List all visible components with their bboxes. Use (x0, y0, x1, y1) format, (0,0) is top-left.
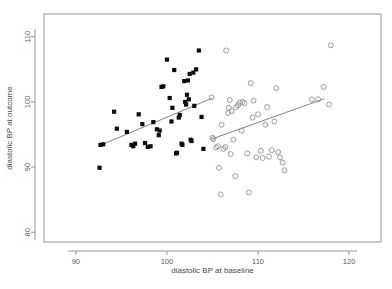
data-point-open-circle (328, 43, 333, 48)
data-point-filled-square (101, 142, 105, 146)
data-point-filled-square (168, 96, 172, 100)
data-point-open-circle (272, 119, 277, 124)
data-point-open-circle (219, 122, 224, 127)
data-point-filled-square (175, 151, 179, 155)
data-point-filled-square (188, 72, 192, 76)
data-point-open-circle (260, 155, 265, 160)
data-point-filled-square (115, 127, 119, 131)
data-point-filled-square (151, 120, 155, 124)
x-tick-label: 110 (252, 257, 264, 266)
data-point-open-circle (246, 190, 251, 195)
data-point-filled-square (184, 102, 188, 106)
data-point-filled-square (199, 115, 203, 119)
chart-canvas: 90100110120 8090100110 diastolic BP at b… (0, 0, 392, 289)
data-point-filled-square (157, 133, 161, 137)
data-point-open-circle (248, 81, 253, 86)
data-point-open-circle (254, 155, 259, 160)
data-point-open-circle (265, 105, 270, 110)
x-tick-label: 120 (343, 257, 356, 266)
data-point-filled-square (194, 67, 198, 71)
scatter-plot-figure: 90100110120 8090100110 diastolic BP at b… (0, 0, 392, 289)
y-axis: 8090100110 (23, 29, 35, 240)
x-axis: 90100110120 (68, 251, 357, 266)
data-point-filled-square (158, 129, 162, 133)
data-point-filled-square (125, 130, 129, 134)
data-point-open-circle (227, 97, 232, 102)
data-point-filled-square (165, 58, 169, 62)
data-point-filled-square (178, 113, 182, 117)
data-point-filled-square (185, 93, 189, 97)
data-point-filled-square (170, 106, 174, 110)
data-point-open-circle (245, 151, 250, 156)
y-tick-label: 80 (23, 228, 32, 236)
data-point-open-circle (263, 122, 268, 127)
data-point-filled-square (97, 166, 101, 170)
data-point-filled-square (182, 79, 186, 83)
data-point-open-circle (231, 137, 236, 142)
data-point-open-circle (239, 128, 244, 133)
plot-frame (44, 14, 381, 242)
data-point-filled-square (143, 141, 147, 145)
series-0 (97, 48, 205, 169)
data-point-filled-square (137, 112, 141, 116)
data-point-open-circle (269, 148, 274, 153)
y-axis-title: diastolic BP at outcome (5, 86, 14, 170)
y-tick-label: 90 (23, 163, 32, 171)
data-point-filled-square (201, 147, 205, 151)
data-point-filled-square (187, 97, 191, 101)
data-point-open-circle (280, 160, 285, 165)
x-axis-title: diastolic BP at baseline (171, 266, 254, 275)
data-point-open-circle (233, 174, 238, 179)
data-point-open-circle (228, 152, 233, 157)
x-tick-label: 90 (72, 257, 80, 266)
data-point-open-circle (250, 115, 255, 120)
data-point-filled-square (180, 143, 184, 147)
data-point-open-circle (256, 112, 261, 117)
data-point-open-circle (266, 154, 271, 159)
data-point-open-circle (321, 84, 326, 89)
data-point-open-circle (282, 168, 287, 173)
y-tick-label: 100 (23, 96, 32, 109)
data-point-filled-square (197, 48, 201, 52)
data-point-filled-square (189, 139, 193, 143)
data-point-filled-square (192, 104, 196, 108)
data-point-filled-square (148, 144, 152, 148)
x-tick-label: 100 (161, 257, 174, 266)
data-point-open-circle (209, 95, 214, 100)
data-point-filled-square (161, 84, 165, 88)
data-point-filled-square (112, 110, 116, 114)
data-point-filled-square (172, 68, 176, 72)
plot-box (44, 14, 381, 242)
data-point-open-circle (218, 192, 223, 197)
data-point-filled-square (186, 78, 190, 82)
data-point-open-circle (276, 150, 281, 155)
axis-titles: diastolic BP at baseline diastolic BP at… (5, 86, 254, 275)
data-point-open-circle (327, 102, 332, 107)
data-point-filled-square (169, 119, 173, 123)
data-point-open-circle (277, 155, 282, 160)
data-point-filled-square (140, 122, 144, 126)
data-point-filled-square (133, 142, 137, 146)
y-tick-label: 110 (23, 31, 32, 43)
data-point-open-circle (224, 48, 229, 53)
data-point-open-circle (274, 86, 279, 91)
data-points (97, 43, 333, 197)
data-point-open-circle (258, 148, 263, 153)
data-point-open-circle (309, 97, 314, 102)
data-point-open-circle (216, 165, 221, 170)
regression-lines (100, 98, 325, 146)
series-1 (209, 43, 333, 197)
data-point-open-circle (251, 98, 256, 103)
data-point-open-circle (226, 105, 231, 110)
